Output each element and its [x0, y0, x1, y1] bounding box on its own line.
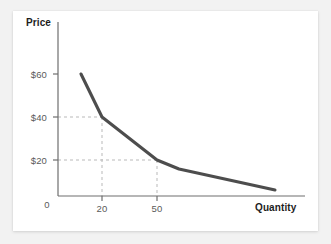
x-axis-title: Quantity [255, 202, 296, 213]
demand-curve-plot [13, 11, 318, 231]
y-tick-label-40: $40 [17, 112, 47, 123]
demand-curve-line [81, 74, 275, 190]
y-tick-label-60: $60 [17, 69, 47, 80]
x-tick-label-50: 50 [143, 203, 171, 214]
chart-card: $60 $40 $20 0 20 50 Price Quantity [13, 11, 318, 231]
y-axis-title: Price [26, 17, 51, 28]
y-tick-label-20: $20 [17, 155, 47, 166]
origin-label: 0 [39, 199, 55, 210]
chart-page: $60 $40 $20 0 20 50 Price Quantity [0, 0, 331, 244]
x-tick-label-20: 20 [88, 203, 116, 214]
